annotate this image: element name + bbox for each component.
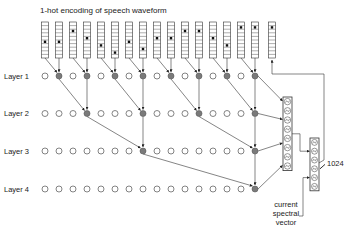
inactive-node [154,73,160,79]
active-node [84,73,90,79]
inactive-node [238,148,244,154]
input-bar [56,22,63,58]
edge [157,58,169,73]
active-node [252,111,258,117]
active-node [84,111,90,117]
one-hot-marker [44,41,46,43]
inactive-node [70,148,76,154]
one-hot-marker [170,37,172,39]
active-node [252,186,258,192]
one-hot-marker [156,37,158,39]
active-node [252,148,258,154]
input-bar [252,22,259,58]
one-hot-marker [86,37,88,39]
inactive-node [168,186,174,192]
inactive-node [182,111,188,117]
edge [101,58,113,73]
active-node [140,148,146,154]
input-bar [112,22,119,58]
inactive-node [182,186,188,192]
output-bar [269,22,276,58]
active-node [56,73,62,79]
inactive-node [182,73,188,79]
edge [241,58,253,73]
active-node [168,73,174,79]
skip-edge [258,165,283,189]
edge [73,58,85,73]
inactive-node [98,73,104,79]
wavenet-diagram: 1-hot encoding of speech waveform Layer … [0,0,351,235]
inactive-node [224,186,230,192]
active-node [252,73,258,79]
output-stacks [283,97,319,191]
inactive-node [196,186,202,192]
skip-edge [258,143,283,151]
edge [185,58,197,73]
inactive-node [112,186,118,192]
inactive-node [126,111,132,117]
inactive-node [56,186,62,192]
inactive-node [182,148,188,154]
inactive-node [98,186,104,192]
one-hot-marker [254,26,256,28]
input-bar [210,22,217,58]
edge [45,58,57,73]
layer-label: Layer 4 [4,185,29,194]
edge [143,154,253,186]
active-node [140,111,146,117]
inactive-node [56,111,62,117]
one-hot-marker [114,51,116,53]
one-hot-marker [184,30,186,32]
input-bar [126,22,133,58]
one-hot-marker [198,30,200,32]
inactive-node [70,111,76,117]
one-hot-marker [240,26,242,28]
active-node [196,111,202,117]
one-hot-marker [212,37,214,39]
input-bar [140,22,147,58]
output-size-label: 1024 [327,159,344,168]
one-hot-marker [100,44,102,46]
input-bar [84,22,91,58]
inactive-node [168,111,174,117]
inactive-node [154,111,160,117]
inactive-node [70,73,76,79]
input-bar [154,22,161,58]
conditioning-edge [299,178,310,216]
edge [227,79,253,111]
edge [199,117,253,149]
one-hot-marker [72,30,74,32]
inactive-node [224,148,230,154]
layer-label: Layer 2 [4,109,29,118]
input-bar [238,22,245,58]
inactive-node [42,111,48,117]
inactive-node [56,148,62,154]
one-hot-marker [271,26,273,28]
skip-edge [258,76,283,101]
inactive-node [168,148,174,154]
active-node [112,73,118,79]
input-bar [182,22,189,58]
inactive-node [154,186,160,192]
conditioning-label-line1: current [274,200,298,209]
softmax-stack [310,138,319,191]
inactive-node [210,73,216,79]
inactive-node [98,148,104,154]
inactive-node [126,148,132,154]
waveform-bars [42,22,276,58]
one-hot-marker [58,41,60,43]
inactive-node [98,111,104,117]
inactive-node [84,148,90,154]
edge [87,117,141,149]
layer-label: Layer 1 [4,72,29,81]
diagram-title: 1-hot encoding of speech waveform [40,6,167,15]
layer-label: Layer 3 [4,147,29,156]
active-node [196,73,202,79]
inactive-node [112,111,118,117]
input-bar [224,22,231,58]
edge [213,58,225,73]
conditioning-label-line3: vector [276,218,297,227]
inactive-node [210,186,216,192]
stack-to-softmax-edge [292,134,310,151]
edge [59,79,85,111]
